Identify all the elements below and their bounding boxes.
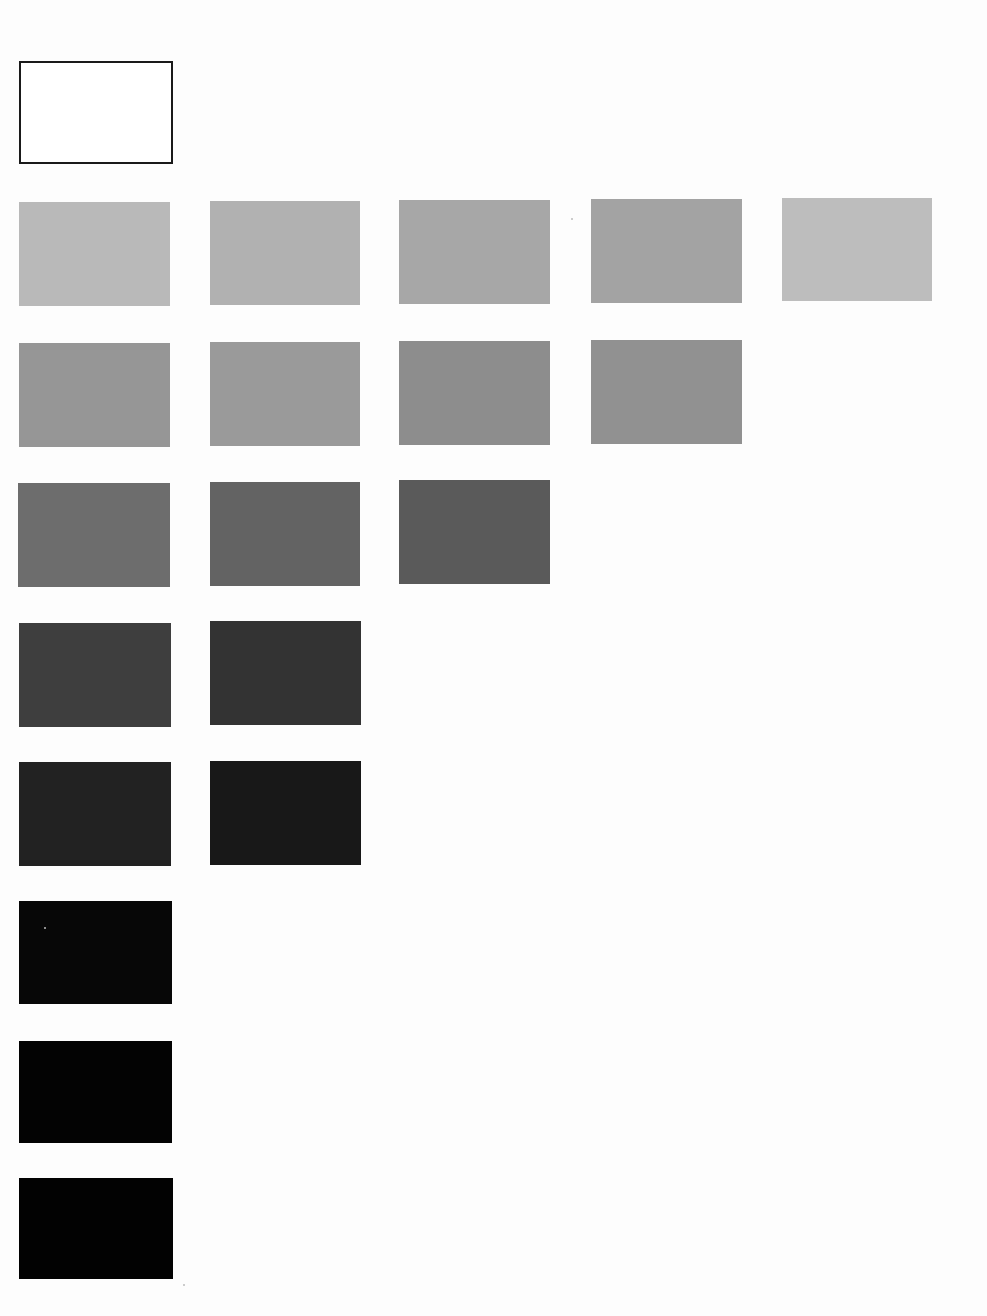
dust-speck-0 [571, 218, 573, 220]
gray-swatch-r2c2 [399, 341, 550, 445]
gray-swatch-r1c1 [210, 201, 360, 305]
gray-swatch-r5c0 [19, 762, 171, 866]
gray-swatch-r2c3 [591, 340, 742, 444]
gray-swatch-r7c0 [19, 1041, 172, 1143]
gray-swatch-r2c1 [210, 342, 360, 446]
gray-swatch-r1c0 [19, 202, 170, 306]
gray-swatch-r3c1 [210, 482, 360, 586]
gray-swatch-r4c0 [19, 623, 171, 727]
gray-swatch-r3c2 [399, 480, 550, 584]
gray-swatch-r1c2 [399, 200, 550, 304]
gray-swatch-r5c1 [210, 761, 361, 865]
gray-swatch-r8c0 [19, 1178, 173, 1279]
gray-swatch-r1c3 [591, 199, 742, 303]
gray-swatch-r2c0 [19, 343, 170, 447]
gray-swatch-r0c0 [19, 61, 173, 164]
dust-speck-1 [44, 927, 46, 929]
dust-speck-2 [183, 1284, 185, 1286]
gray-swatch-r1c4 [782, 198, 932, 301]
gray-swatch-r6c0 [19, 901, 172, 1004]
swatch-sheet [0, 0, 987, 1316]
gray-swatch-r3c0 [18, 483, 170, 587]
gray-swatch-r4c1 [210, 621, 361, 725]
